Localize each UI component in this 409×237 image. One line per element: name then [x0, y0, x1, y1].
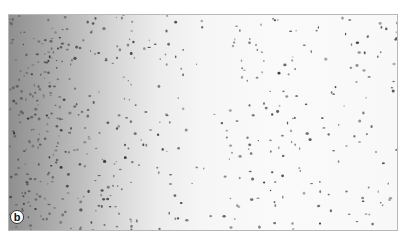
cell-dots [9, 15, 398, 231]
micrograph-panel [8, 14, 398, 231]
panel-label: b [10, 210, 24, 224]
